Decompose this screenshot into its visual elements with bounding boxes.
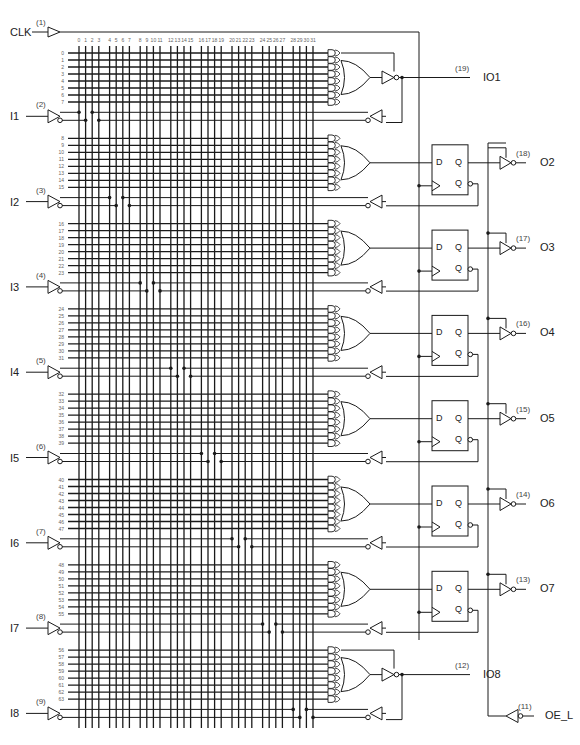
output-pin-number: (19) — [455, 64, 469, 73]
flipflop-q-label: Q — [455, 157, 462, 167]
column-number: 23 — [249, 37, 255, 43]
junction-dot — [417, 525, 421, 529]
row-number: 40 — [52, 477, 64, 483]
junction-dot — [291, 708, 295, 712]
row-number: 27 — [52, 327, 64, 333]
flipflop-d-label: D — [436, 327, 443, 337]
row-number: 6 — [52, 92, 64, 98]
output-label: IO1 — [483, 71, 501, 83]
column-number: 7 — [128, 37, 131, 43]
output-pin-number: (15) — [516, 405, 530, 414]
or-gate-icon — [341, 487, 370, 521]
junction-dot — [145, 289, 149, 293]
column-number: 27 — [280, 37, 286, 43]
and-gate-icon — [328, 604, 335, 611]
row-number: 44 — [52, 505, 64, 511]
and-gate-icon — [328, 320, 335, 327]
row-number: 18 — [52, 235, 64, 241]
column-number: 5 — [115, 37, 118, 43]
input-pin-number: (7) — [36, 527, 46, 536]
input-label: I7 — [10, 622, 19, 634]
and-gate-icon — [328, 64, 335, 71]
flipflop-q-label: Q — [455, 327, 462, 337]
row-number: 0 — [52, 50, 64, 56]
flipflop-d-label: D — [436, 413, 443, 423]
output-pin-number: (13) — [516, 575, 530, 584]
row-number: 15 — [52, 184, 64, 190]
inversion-bubble — [468, 437, 473, 442]
inversion-bubble — [366, 374, 371, 379]
and-gate-icon — [328, 163, 335, 170]
inversion-bubble — [468, 523, 473, 528]
row-number: 39 — [52, 440, 64, 446]
column-number: 28 — [290, 37, 296, 43]
row-number: 28 — [52, 334, 64, 340]
input-label: I6 — [10, 537, 19, 549]
inversion-bubble — [511, 246, 516, 251]
flipflop-q-label: Q — [455, 498, 462, 508]
feedback-buffer-icon — [370, 707, 382, 720]
column-number: 8 — [139, 37, 142, 43]
row-number: 33 — [52, 398, 64, 404]
row-number: 22 — [52, 263, 64, 269]
column-number: 4 — [108, 37, 111, 43]
junction-dot — [121, 196, 125, 200]
column-number: 1 — [84, 37, 87, 43]
junction-dot — [77, 111, 81, 115]
input-pin-number: (6) — [36, 442, 46, 451]
and-gate-icon — [328, 156, 335, 163]
junction-dot — [200, 452, 204, 456]
output-pin-number: (17) — [516, 234, 530, 243]
row-number: 53 — [52, 597, 64, 603]
junction-dot — [237, 545, 241, 549]
and-gate-icon — [328, 696, 335, 703]
and-gate-output — [335, 477, 340, 483]
row-number: 63 — [52, 696, 64, 702]
inversion-bubble — [366, 715, 371, 720]
and-gate-icon — [328, 99, 335, 106]
input-pin-number: (8) — [36, 612, 46, 621]
or-gate-icon — [341, 231, 370, 265]
and-gate-icon — [328, 269, 335, 276]
inversion-bubble — [58, 289, 63, 294]
and-gate-icon — [328, 85, 335, 92]
row-number: 17 — [52, 228, 64, 234]
and-gate-icon — [328, 71, 335, 78]
inversion-bubble — [511, 416, 516, 421]
row-number: 14 — [52, 177, 64, 183]
and-gate-output — [335, 569, 340, 575]
junction-dot — [230, 537, 234, 541]
junction-dot — [169, 366, 173, 370]
input-pin-number: (3) — [36, 186, 46, 195]
row-number: 55 — [52, 611, 64, 617]
junction-dot — [261, 622, 265, 626]
and-gate-icon — [328, 327, 335, 334]
output-pin-number: (14) — [516, 490, 530, 499]
inversion-bubble — [468, 352, 473, 357]
row-number: 8 — [52, 135, 64, 141]
tristate-inverter-icon — [382, 668, 394, 681]
flipflop-q-label: Q — [455, 413, 462, 423]
junction-dot — [158, 289, 162, 293]
and-gate-icon — [328, 419, 335, 426]
row-number: 13 — [52, 170, 64, 176]
row-number: 61 — [52, 682, 64, 688]
row-number: 24 — [52, 306, 64, 312]
and-gate-icon — [328, 57, 335, 64]
inversion-bubble — [366, 630, 371, 635]
junction-dot — [274, 622, 278, 626]
row-number: 2 — [52, 64, 64, 70]
inversion-bubble — [58, 630, 63, 635]
row-number: 9 — [52, 142, 64, 148]
and-gate-icon — [328, 306, 335, 313]
input-label: I5 — [10, 452, 19, 464]
column-number: 0 — [78, 37, 81, 43]
inversion-bubble — [58, 118, 63, 123]
output-label: IO8 — [483, 668, 501, 680]
junction-dot — [182, 366, 186, 370]
column-number: 12 — [168, 37, 174, 43]
output-label: O7 — [540, 582, 555, 594]
row-number: 31 — [52, 355, 64, 361]
and-gate-icon — [328, 576, 335, 583]
column-number: 21 — [236, 37, 242, 43]
